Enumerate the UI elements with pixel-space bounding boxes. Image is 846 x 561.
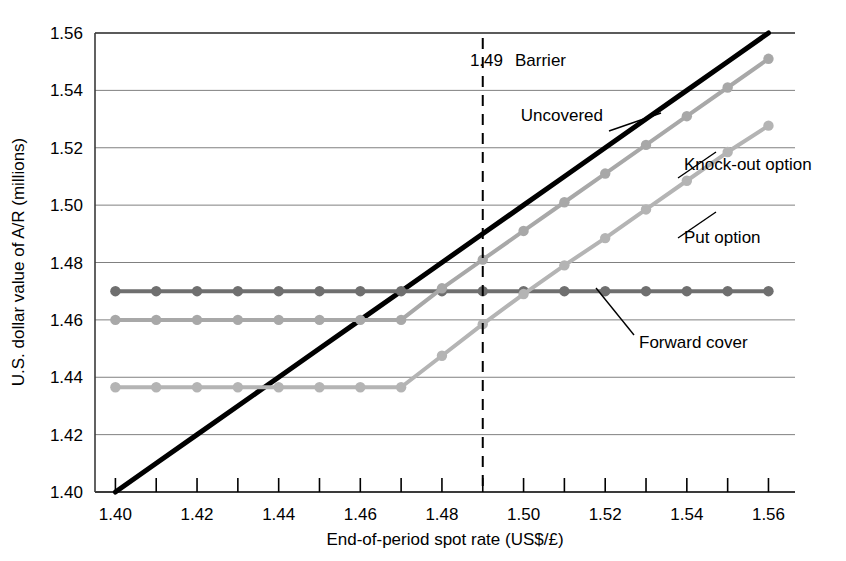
data-point — [559, 260, 569, 270]
data-point — [314, 286, 324, 296]
data-point — [314, 382, 324, 392]
x-axis-tick-label: 1.42 — [180, 505, 213, 524]
y-axis-tick-label: 1.54 — [50, 81, 83, 100]
data-point — [355, 286, 365, 296]
chart-container: 1.401.421.441.461.481.501.521.541.56 1.5… — [0, 0, 846, 561]
y-axis-tick-label: 1.48 — [50, 254, 83, 273]
x-axis-tick-label: 1.48 — [425, 505, 458, 524]
data-point — [233, 382, 243, 392]
y-axis-tick-label: 1.46 — [50, 311, 83, 330]
data-point — [396, 315, 406, 325]
data-point — [437, 351, 447, 361]
put-option-label: Put option — [684, 228, 761, 247]
data-point — [437, 283, 447, 293]
x-axis-title: End-of-period spot rate (US$/£) — [326, 530, 563, 549]
data-point — [151, 315, 161, 325]
y-axis-tick-label: 1.56 — [50, 24, 83, 43]
data-point — [192, 286, 202, 296]
data-point — [110, 382, 120, 392]
data-point — [355, 315, 365, 325]
data-point — [396, 382, 406, 392]
x-axis-tick-label: 1.40 — [99, 505, 132, 524]
y-axis-tick-label: 1.44 — [50, 368, 83, 387]
y-axis-tick-label: 1.40 — [50, 483, 83, 502]
data-point — [233, 286, 243, 296]
data-point — [763, 286, 773, 296]
data-point — [273, 382, 283, 392]
data-point — [396, 286, 406, 296]
financial-line-chart: 1.401.421.441.461.481.501.521.541.56 1.5… — [0, 0, 846, 561]
data-point — [110, 286, 120, 296]
data-point — [763, 54, 773, 64]
data-point — [600, 233, 610, 243]
data-point — [763, 120, 773, 130]
data-point — [192, 382, 202, 392]
data-point — [722, 82, 732, 92]
data-point — [600, 168, 610, 178]
data-point — [273, 286, 283, 296]
data-point — [314, 315, 324, 325]
data-point — [273, 315, 283, 325]
data-point — [722, 286, 732, 296]
y-axis-tick-labels: 1.561.541.521.501.481.461.441.421.40 — [50, 24, 83, 502]
x-axis-tick-label: 1.44 — [262, 505, 295, 524]
data-point — [192, 315, 202, 325]
uncovered-label: Uncovered — [521, 106, 603, 125]
data-point — [151, 286, 161, 296]
data-point — [682, 286, 692, 296]
data-point — [682, 111, 692, 121]
y-axis-tick-label: 1.50 — [50, 196, 83, 215]
data-point — [518, 226, 528, 236]
data-point — [641, 286, 651, 296]
x-axis-tick-label: 1.46 — [344, 505, 377, 524]
x-axis-tick-label: 1.52 — [589, 505, 622, 524]
data-point — [559, 197, 569, 207]
y-axis-title: U.S. dollar value of A/R (millions) — [9, 138, 28, 386]
knock-out-label: Knock-out option — [684, 155, 812, 174]
y-axis-tick-label: 1.52 — [50, 139, 83, 158]
x-axis-tick-labels: 1.401.421.441.461.481.501.521.541.56 — [99, 505, 785, 524]
x-axis-tick-label: 1.56 — [752, 505, 785, 524]
data-point — [151, 382, 161, 392]
data-point — [518, 289, 528, 299]
data-point — [355, 382, 365, 392]
data-point — [233, 315, 243, 325]
data-point — [110, 315, 120, 325]
data-point — [559, 286, 569, 296]
barrier-value-label: 1.49 — [470, 51, 503, 70]
forward-cover-label: Forward cover — [639, 333, 748, 352]
x-axis-tick-label: 1.50 — [507, 505, 540, 524]
y-axis-tick-label: 1.42 — [50, 426, 83, 445]
data-point — [641, 204, 651, 214]
data-point — [682, 176, 692, 186]
data-point — [641, 140, 651, 150]
x-axis-tick-label: 1.54 — [670, 505, 703, 524]
barrier-text-label: Barrier — [515, 51, 566, 70]
